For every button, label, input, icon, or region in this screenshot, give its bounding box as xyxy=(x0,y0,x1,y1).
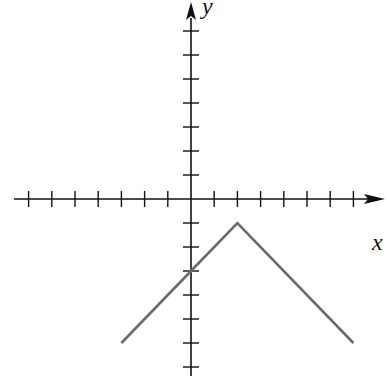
x-axis xyxy=(14,194,385,204)
y-axis-label: y xyxy=(200,0,213,19)
function-line xyxy=(121,223,353,343)
y-axis xyxy=(186,2,196,376)
y-arrow-icon xyxy=(186,2,196,20)
x-axis-label: x xyxy=(371,229,383,255)
function-graph xyxy=(121,223,353,343)
coordinate-plane: x y xyxy=(0,0,387,380)
graph-figure: x y xyxy=(0,0,387,380)
